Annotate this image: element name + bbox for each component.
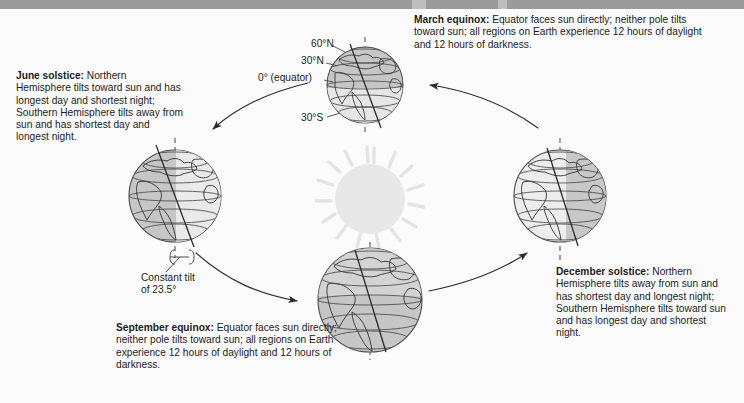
pointer-30s [327,113,340,117]
orbit-arrow-march-to-june [213,83,308,129]
sun-icon [316,147,424,248]
caption-december-solstice: December solstice: Northern Hemisphere t… [556,266,732,340]
caption-september-term: September equinox: [116,322,214,333]
caption-september-equinox: September equinox: Equator faces sun dir… [116,322,368,371]
orbit-arrow-december-to-march [430,85,538,128]
caption-june-solstice: June solstice: Northern Hemisphere tilts… [16,70,184,144]
globe-march-equinox [325,37,405,133]
globe-june-solstice [129,138,230,272]
orbit-arrow-june-to-september [196,253,297,301]
seasons-diagram: June solstice: Northern Hemisphere tilts… [0,0,744,403]
caption-june-term: June solstice: [16,70,84,81]
label-latitude-30s: 30°S [301,112,323,123]
tilt-line-1: Constant tilt [141,272,195,283]
tilt-line-2: of 23.5° [141,284,176,295]
pointer-60n [333,46,345,52]
label-latitude-equator: 0° (equator) [258,72,312,83]
label-latitude-30n: 30°N [301,55,324,66]
diagram-canvas [0,0,744,403]
orbit-arrow-september-to-december [429,253,527,291]
caption-march-equinox: March equinox: Equator faces sun directl… [414,14,714,51]
globe-december-solstice [514,138,612,262]
label-latitude-60n: 60°N [311,38,334,49]
label-constant-tilt: Constant tiltof 23.5° [141,272,195,297]
caption-december-term: December solstice: [556,266,649,277]
caption-march-term: March equinox: [414,14,489,25]
